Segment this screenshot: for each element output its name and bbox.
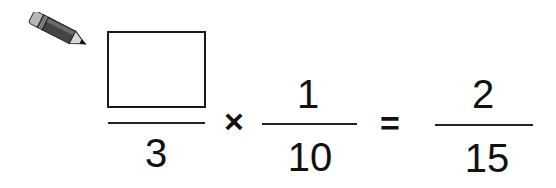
result-denominator: 15 bbox=[457, 138, 517, 178]
fraction-bar bbox=[435, 124, 533, 126]
denominator-2: 10 bbox=[280, 137, 340, 177]
answer-input-box[interactable] bbox=[107, 31, 206, 108]
fraction-bar bbox=[262, 123, 357, 125]
result-numerator: 2 bbox=[455, 74, 511, 114]
fraction-bar bbox=[108, 122, 205, 124]
numerator-2: 1 bbox=[280, 74, 336, 114]
equals-sign: = bbox=[374, 106, 406, 140]
pencil-icon bbox=[24, 12, 96, 50]
denominator-1: 3 bbox=[126, 133, 186, 173]
multiply-operator: × bbox=[218, 104, 250, 138]
